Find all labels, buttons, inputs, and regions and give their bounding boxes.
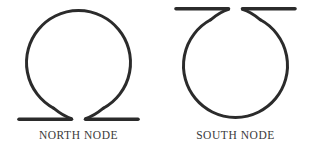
symbol-chart-canvas: NORTH NODE SOUTH NODE: [0, 0, 314, 157]
north-node-symbol-cell: NORTH NODE: [0, 0, 157, 157]
south-node-inverted-omega-glyph: [157, 0, 314, 128]
south-node-label: SOUTH NODE: [196, 129, 275, 142]
north-node-label: NORTH NODE: [39, 129, 118, 142]
south-node-symbol-cell: SOUTH NODE: [157, 0, 314, 157]
north-node-omega-glyph: [0, 0, 157, 128]
